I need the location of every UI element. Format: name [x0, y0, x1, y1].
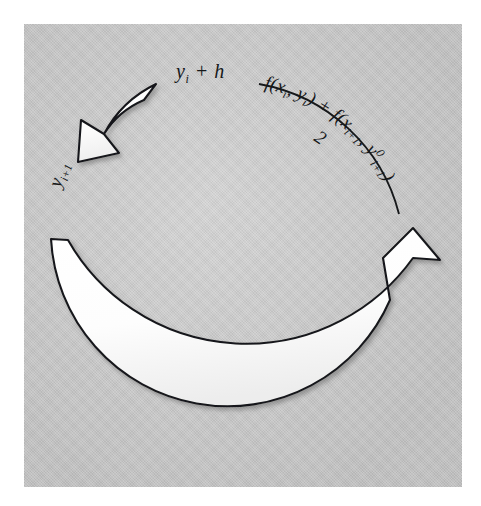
diagram-canvas: f(xi, yi) + f(xi+1, y0i+1) 2: [0, 0, 481, 506]
figure-page: f(xi, yi) + f(xi+1, y0i+1) 2 yi + h yi+1: [0, 0, 481, 506]
label-y-i-plus-h: yi + h: [176, 60, 225, 87]
label-y-i-plus-h-base: y: [176, 60, 185, 82]
label-y-i-plus-h-tail: + h: [189, 60, 225, 82]
main-cycle-arrow: [51, 228, 440, 406]
return-arrow: [78, 84, 156, 162]
formula-numerator: f(xi, yi) + f(xi+1, y0i+1): [263, 72, 400, 185]
formula-denominator: 2: [311, 126, 331, 149]
return-arrow-body: [78, 84, 156, 162]
main-cycle-arrow-body: [51, 228, 440, 406]
